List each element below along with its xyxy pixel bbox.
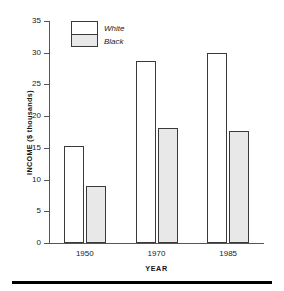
- bar-1985-black: [229, 131, 249, 243]
- y-axis-tick-label: 0: [0, 239, 41, 247]
- y-axis-tick-label: 20: [0, 112, 41, 120]
- y-axis-title: INCOME ($ thousands): [25, 53, 34, 213]
- y-axis-tick-label: 10: [0, 176, 41, 184]
- bar-chart-figure: INCOME ($ thousands) 05101520253035 1950…: [0, 0, 284, 291]
- x-axis-line: [49, 243, 264, 244]
- bars-layer: [49, 21, 264, 243]
- y-axis-tick-label: 15: [0, 144, 41, 152]
- x-axis-tick-label: 1950: [60, 249, 110, 258]
- legend-label-black: Black: [104, 37, 124, 46]
- x-axis-tick-label: 1985: [203, 249, 253, 258]
- legend-swatch-white: [72, 22, 97, 34]
- bar-1950-black: [86, 186, 106, 243]
- bottom-divider-rule: [12, 281, 272, 284]
- legend-label-white: White: [104, 24, 124, 33]
- y-axis-tick-label: 35: [0, 17, 41, 25]
- bar-1970-white: [136, 61, 156, 243]
- legend-swatch-box: [71, 21, 98, 47]
- x-axis-tick-label: 1970: [132, 249, 182, 258]
- x-axis-title: YEAR: [49, 264, 264, 273]
- y-axis-tick-label: 5: [0, 207, 41, 215]
- bar-1985-white: [207, 53, 227, 243]
- bar-1970-black: [158, 128, 178, 243]
- bar-1950-white: [64, 146, 84, 243]
- legend-swatch-black: [72, 34, 97, 46]
- y-axis-tick-label: 25: [0, 80, 41, 88]
- y-axis-tick-label: 30: [0, 49, 41, 57]
